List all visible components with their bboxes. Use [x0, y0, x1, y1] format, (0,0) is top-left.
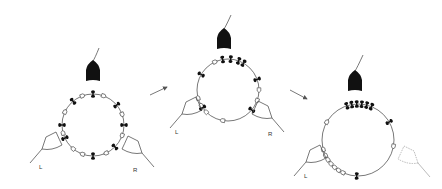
- black-tip-icon: [86, 60, 100, 81]
- open-marker-icon: [101, 93, 107, 98]
- panel-2-label-right: R: [268, 131, 272, 137]
- panel-1-label-right: R: [133, 167, 137, 173]
- right-cell-icon: [398, 146, 418, 164]
- black-marker-icon: [344, 102, 350, 110]
- black-marker-icon: [253, 76, 262, 82]
- left-cell-icon: [42, 132, 62, 150]
- black-marker-icon: [240, 59, 247, 68]
- open-marker-icon: [120, 112, 125, 118]
- open-marker-icon: [80, 93, 86, 98]
- right-cell-stem: [418, 163, 430, 177]
- tip-tail-line: [224, 15, 231, 29]
- right-cell-stem: [272, 118, 284, 132]
- open-marker-icon: [103, 151, 109, 156]
- tip-tail-line: [93, 48, 99, 61]
- open-marker-icon: [391, 144, 395, 149]
- panel-2-label-left: L: [175, 129, 178, 135]
- black-marker-icon: [197, 71, 206, 78]
- open-marker-icon: [257, 88, 261, 93]
- open-marker-icon: [120, 133, 125, 139]
- open-marker-icon: [62, 109, 67, 115]
- black-marker-icon: [235, 57, 241, 66]
- figure-canvas: L R L R L: [0, 0, 442, 189]
- arrow-icon-2: [290, 90, 307, 99]
- left-cell-stem: [30, 149, 42, 163]
- black-tip-icon: [217, 28, 231, 49]
- right-cell-icon: [252, 101, 272, 119]
- black-tip-icon: [348, 70, 362, 91]
- panel-1-label-left: L: [39, 164, 42, 170]
- black-marker-icon: [368, 102, 375, 111]
- left-cell-stem: [170, 114, 182, 128]
- tip-tail-line: [355, 55, 363, 71]
- open-marker-icon: [79, 152, 85, 157]
- black-marker-icon: [385, 118, 394, 125]
- diagram-svg: [0, 0, 442, 189]
- open-marker-icon: [61, 130, 66, 136]
- right-cell-stem: [142, 153, 154, 167]
- panel-3-label-left: L: [304, 173, 307, 179]
- right-cell-icon: [122, 136, 142, 154]
- black-marker-icon: [364, 101, 370, 109]
- open-marker-icon: [220, 118, 225, 122]
- open-marker-icon: [324, 119, 330, 125]
- open-marker-icon: [212, 59, 218, 64]
- arrow-icon-1: [150, 87, 167, 95]
